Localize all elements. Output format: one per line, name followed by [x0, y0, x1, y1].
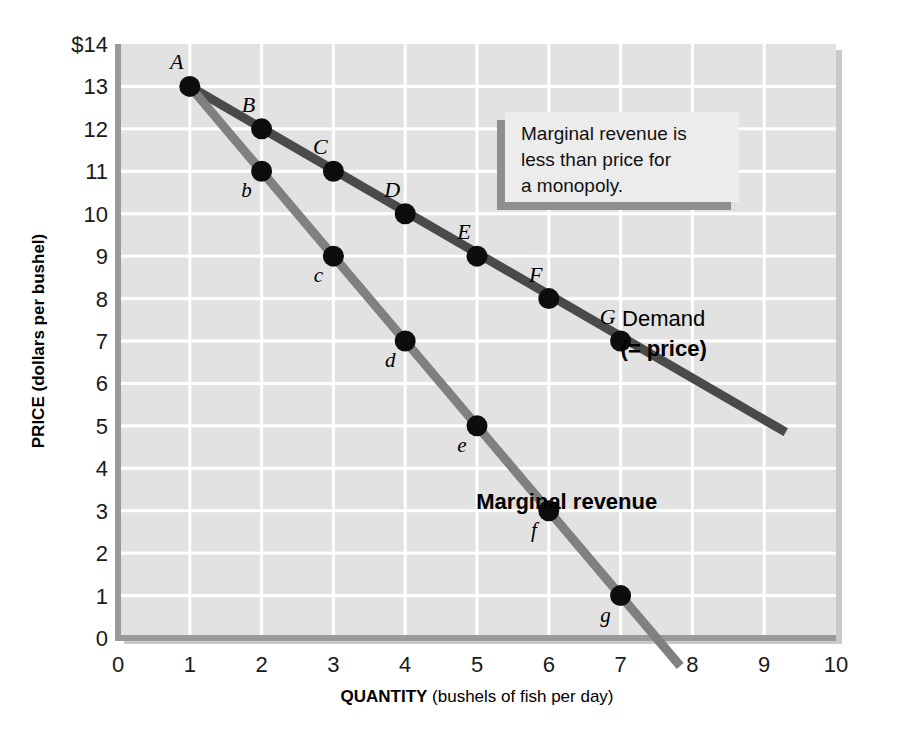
data-point-marker [610, 585, 631, 606]
x-axis-tick-label: 0 [112, 652, 124, 677]
data-point-label: B [242, 92, 255, 117]
data-point-marker [323, 246, 344, 267]
data-point-marker [179, 76, 200, 97]
data-point-label: C [313, 134, 328, 159]
data-point-label: A [168, 49, 184, 74]
x-axis-tick-label: 4 [399, 652, 411, 677]
y-axis-tick-label: 11 [85, 159, 108, 184]
data-point-marker [251, 118, 272, 139]
annotation-callout: Marginal revenue isless than price fora … [497, 112, 739, 210]
y-axis-tick-label: 13 [84, 74, 108, 99]
y-axis-tick-label: 8 [96, 287, 108, 312]
x-axis-tick-label: 2 [255, 652, 267, 677]
data-point-marker [467, 246, 488, 267]
x-axis-tick-label: 9 [758, 652, 770, 677]
y-axis-tick-label: 9 [96, 244, 108, 269]
chart-figure: 012345678910111213$14 012345678910 PRICE… [0, 0, 899, 729]
y-axis-tick-label: 5 [96, 414, 108, 439]
data-point-marker [395, 331, 416, 352]
gridline-horizontal [118, 340, 836, 343]
monopoly-demand-marginal-revenue-chart: 012345678910111213$14 012345678910 PRICE… [0, 0, 899, 729]
x-axis-tick-label: 7 [614, 652, 626, 677]
data-point-marker [323, 161, 344, 182]
x-axis-tick-label: 6 [543, 652, 555, 677]
y-axis-tick-label: 3 [96, 499, 108, 524]
x-axis-title: QUANTITY (bushels of fish per day) [340, 687, 613, 706]
x-axis-tick-label: 1 [184, 652, 196, 677]
data-point-marker [467, 415, 488, 436]
callout-line: less than price for [521, 149, 672, 170]
y-axis-tick-label: 7 [96, 329, 108, 354]
callout-line: Marginal revenue is [521, 123, 687, 144]
data-point-label: b [241, 178, 252, 202]
callout-line: a monopoly. [521, 175, 623, 196]
y-axis-tick-label: 1 [96, 584, 108, 609]
data-point-label: e [457, 433, 466, 457]
gridline-horizontal [118, 552, 836, 555]
x-axis-tick-label: 8 [686, 652, 698, 677]
x-axis-tick-label: 5 [471, 652, 483, 677]
data-point-label: G [600, 304, 616, 329]
y-axis-title: PRICE (dollars per bushel) [29, 234, 48, 448]
data-point-label: D [383, 177, 400, 202]
data-point-label: d [385, 348, 396, 372]
y-axis-tick-label: 6 [96, 371, 108, 396]
y-axis-tick-label: 2 [96, 541, 108, 566]
gridline-horizontal [118, 467, 836, 470]
gridline-horizontal [118, 297, 836, 300]
data-point-marker [251, 161, 272, 182]
series-label-secondary: (= price) [621, 336, 707, 361]
y-axis-tick-label: $14 [71, 32, 108, 57]
data-point-marker [395, 203, 416, 224]
series-label: Demand [622, 306, 705, 331]
series-label: Marginal revenue [476, 489, 657, 514]
x-axis-spine [115, 635, 836, 641]
gridline-horizontal [118, 594, 836, 597]
data-point-marker [538, 288, 559, 309]
y-axis-spine [115, 44, 121, 641]
y-axis-tick-label: 0 [96, 626, 108, 651]
y-axis-tick-label: 4 [96, 456, 108, 481]
gridline-horizontal [118, 212, 836, 215]
gridline-horizontal [118, 382, 836, 385]
data-point-label: c [314, 263, 324, 287]
y-axis-tick-label: 12 [84, 117, 108, 142]
data-point-label: F [528, 262, 543, 287]
data-point-label: g [600, 603, 611, 627]
y-axis-tick-label: 10 [84, 202, 108, 227]
x-axis-tick-label: 10 [824, 652, 848, 677]
gridline-horizontal [118, 85, 836, 88]
data-point-label: E [456, 219, 471, 244]
x-axis-tick-label: 3 [327, 652, 339, 677]
